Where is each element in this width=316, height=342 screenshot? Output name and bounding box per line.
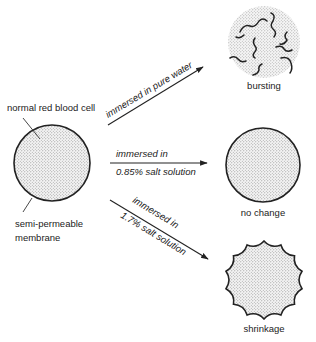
normal-cell-circle [14, 125, 90, 201]
crenated-cell-outline [226, 241, 302, 319]
bursting-cell-body [228, 6, 300, 78]
arrow-isotonic: immersed in 0.85% salt solution [110, 148, 207, 177]
arrow-label-isotonic-line2: 0.85% salt solution [116, 166, 196, 177]
osmosis-diagram: normal red blood cell semi-permeable mem… [0, 0, 316, 342]
membrane-label-line1: semi-permeable [15, 218, 83, 229]
no-change-cell [226, 128, 300, 202]
result-label-bursting: bursting [247, 80, 281, 91]
arrow-label-pure-water: immersed in pure water [103, 59, 194, 120]
bursting-cell [228, 6, 300, 78]
membrane-label-line2: membrane [15, 232, 60, 243]
arrow-line-pure-water [108, 67, 203, 125]
result-label-shrinkage: shrinkage [243, 323, 284, 334]
no-change-cell-circle [226, 128, 300, 202]
normal-red-blood-cell [14, 125, 90, 201]
shrinkage-cell [226, 241, 302, 319]
membrane-leader-line [23, 198, 32, 212]
result-label-no-change: no change [241, 207, 285, 218]
normal-cell-label: normal red blood cell [7, 102, 95, 113]
arrow-hypertonic: immersed in 1.7% salt solution [110, 194, 208, 259]
arrow-label-isotonic-line1: immersed in [116, 148, 168, 159]
arrow-pure-water: immersed in pure water [103, 59, 203, 125]
